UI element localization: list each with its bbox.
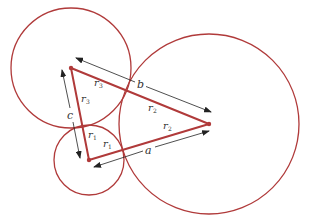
center-point-3	[69, 66, 73, 70]
center-point-2	[207, 122, 211, 126]
label-b: b	[137, 78, 144, 91]
label-r3-top: r 3	[94, 77, 103, 89]
center-point-1	[87, 158, 91, 162]
label-c: c	[67, 109, 73, 122]
arrow-c-up	[62, 70, 70, 108]
label-a: a	[145, 144, 152, 157]
arrow-a-right	[155, 131, 209, 147]
arrow-a-left	[94, 151, 143, 167]
svg-text:2: 2	[168, 125, 172, 132]
label-r3-side: r 3	[81, 93, 90, 105]
svg-text:3: 3	[86, 98, 90, 105]
svg-text:1: 1	[108, 143, 112, 150]
arrow-b-left	[76, 58, 135, 82]
diagram-canvas: b a c r 3 r 3 r 2 r 2 r 1 r 1	[0, 0, 310, 219]
label-r2-top: r 2	[148, 102, 157, 114]
tangent-circles-diagram: b a c r 3 r 3 r 2 r 2 r 1 r 1	[0, 0, 310, 219]
label-r1-side: r 1	[88, 129, 97, 141]
svg-text:3: 3	[99, 82, 103, 89]
label-r2-bottom: r 2	[163, 120, 172, 132]
svg-text:2: 2	[153, 107, 157, 114]
label-r1-bottom: r 1	[103, 138, 112, 150]
svg-text:1: 1	[93, 134, 97, 141]
